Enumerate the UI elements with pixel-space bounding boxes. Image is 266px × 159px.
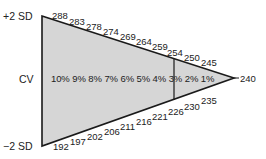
upper-value: 283 bbox=[69, 17, 85, 27]
upper-value: 259 bbox=[152, 42, 168, 52]
upper-value: 278 bbox=[86, 22, 102, 32]
lower-value: 197 bbox=[70, 137, 86, 147]
upper-value: 274 bbox=[103, 27, 119, 37]
lower-value: 226 bbox=[168, 107, 184, 117]
lower-value: 202 bbox=[87, 132, 103, 142]
lower-value: 192 bbox=[53, 142, 69, 152]
lower-value: 206 bbox=[104, 127, 120, 137]
lower-value: 221 bbox=[152, 112, 168, 122]
upper-value: 254 bbox=[167, 48, 183, 58]
lower-value: 235 bbox=[201, 96, 217, 106]
cv-label: CV bbox=[19, 74, 34, 85]
upper-value: 264 bbox=[136, 37, 152, 47]
lower-value: 211 bbox=[120, 122, 135, 132]
plus-2sd-label: +2 SD bbox=[3, 11, 32, 22]
upper-value: 245 bbox=[201, 58, 217, 68]
upper-value: 288 bbox=[52, 11, 68, 21]
apex-value: 240 bbox=[240, 74, 256, 84]
minus-2sd-label: −2 SD bbox=[3, 141, 32, 152]
lower-value: 230 bbox=[184, 102, 200, 112]
upper-value: 250 bbox=[184, 53, 200, 63]
cv-percent-row: 10% 9% 8% 7% 6% 5% 4% 3% 2% 1% bbox=[51, 74, 214, 84]
cv-triangle-diagram: +2 SD CV −2 SD 10% 9% 8% 7% 6% 5% 4% 3% … bbox=[0, 0, 266, 159]
lower-value: 216 bbox=[136, 117, 152, 127]
upper-value: 269 bbox=[120, 32, 136, 42]
